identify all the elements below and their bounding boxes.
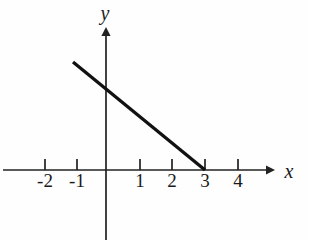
x-tick-label-minus1: -1 bbox=[69, 170, 85, 192]
x-tick-label-4: 4 bbox=[233, 170, 243, 192]
y-axis bbox=[101, 27, 110, 240]
coordinate-plane bbox=[0, 0, 309, 240]
graph-figure: -2 -1 1 2 3 4 x y bbox=[0, 0, 309, 240]
x-axis-ticks bbox=[45, 159, 238, 170]
x-tick-label-1: 1 bbox=[135, 170, 145, 192]
x-tick-label-2: 2 bbox=[167, 170, 177, 192]
y-axis-label: y bbox=[101, 2, 110, 25]
line-graph-curve bbox=[73, 62, 205, 170]
x-tick-label-3: 3 bbox=[200, 170, 210, 192]
x-tick-label-minus2: -2 bbox=[37, 170, 53, 192]
x-axis-label: x bbox=[285, 160, 294, 183]
